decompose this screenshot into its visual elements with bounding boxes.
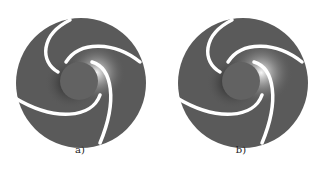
impeller-a-image: [0, 0, 160, 150]
figure-a-label: a): [0, 144, 160, 155]
figure-b-label: b): [161, 144, 321, 155]
impeller-b-image: [161, 0, 321, 150]
figure-b: b): [161, 0, 321, 179]
figure-a: a): [0, 0, 160, 179]
